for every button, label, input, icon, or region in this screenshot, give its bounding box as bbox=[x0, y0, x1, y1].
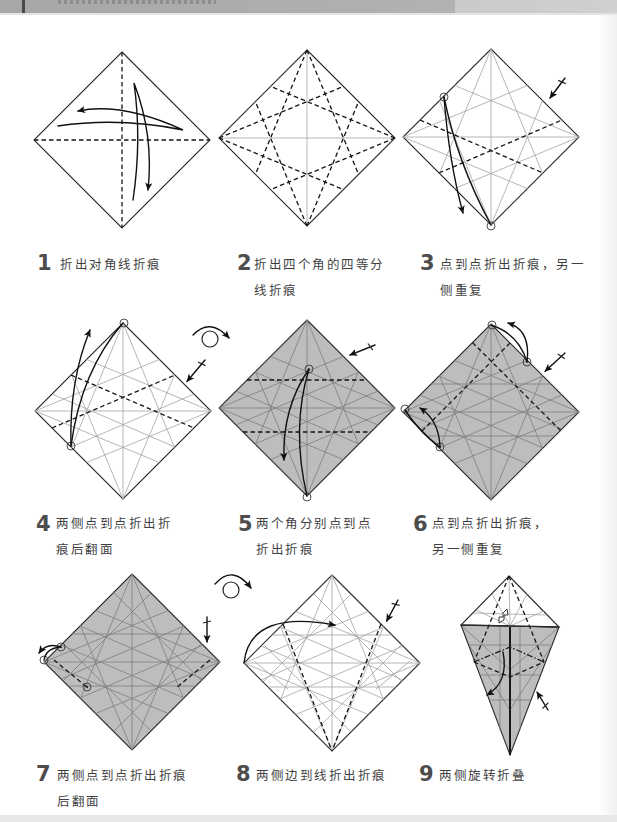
step-8-diagram bbox=[244, 575, 420, 751]
repeat-other-side-icon bbox=[534, 690, 552, 712]
step-3-diagram bbox=[403, 49, 579, 230]
step-6-diagram bbox=[401, 321, 579, 500]
existing-creases bbox=[403, 324, 579, 500]
caption-line: 后翻面 bbox=[57, 789, 188, 815]
repeat-other-side-icon bbox=[383, 598, 401, 623]
step-number: 6 bbox=[413, 514, 428, 535]
existing-creases bbox=[244, 575, 420, 751]
existing-creases bbox=[403, 49, 579, 225]
caption-line: 痕后翻面 bbox=[56, 537, 172, 563]
step-number: 4 bbox=[36, 514, 51, 535]
caption-line: 折出对角线折痕 bbox=[60, 252, 162, 278]
caption-line: 折出四个角的四等分 bbox=[254, 252, 385, 278]
step-caption: 点到点折出折痕， 另一侧重复 bbox=[432, 511, 548, 563]
repeat-other-side-icon bbox=[542, 350, 567, 374]
step-caption: 两侧旋转折叠 bbox=[439, 763, 526, 789]
caption-line: 两侧旋转折叠 bbox=[439, 763, 526, 789]
step-caption: 两侧边到线折出折痕 bbox=[256, 763, 387, 789]
step-number: 9 bbox=[419, 764, 434, 785]
point-dot-icon bbox=[86, 686, 88, 688]
step-number: 1 bbox=[37, 253, 52, 274]
step-caption: 折出四个角的四等分 线折痕 bbox=[254, 252, 385, 304]
step-caption: 两侧点到点折出折 痕后翻面 bbox=[56, 511, 172, 563]
step-4-diagram bbox=[35, 319, 211, 499]
step-2-diagram bbox=[219, 50, 395, 226]
caption-line: 折出折痕 bbox=[256, 537, 372, 563]
step-9-diagram bbox=[461, 576, 559, 755]
step-caption: 两侧点到点折出折痕 后翻面 bbox=[57, 763, 188, 815]
step-7-diagram bbox=[39, 574, 220, 750]
step-caption: 折出对角线折痕 bbox=[60, 252, 162, 278]
turn-over-icon bbox=[215, 575, 251, 598]
repeat-other-side-icon bbox=[348, 341, 376, 358]
caption-line: 点到点折出折痕，另一 bbox=[440, 252, 585, 278]
repeat-other-side-icon bbox=[184, 357, 208, 384]
step-number: 7 bbox=[36, 764, 51, 785]
step-number: 3 bbox=[420, 253, 435, 274]
caption-line: 线折痕 bbox=[254, 278, 385, 304]
step-number: 2 bbox=[237, 253, 252, 274]
caption-line: 点到点折出折痕， bbox=[432, 511, 548, 537]
step-number: 5 bbox=[238, 514, 253, 535]
step-5-diagram bbox=[219, 320, 395, 501]
repeat-other-side-icon bbox=[203, 617, 211, 642]
repeat-other-side-icon bbox=[547, 76, 568, 101]
caption-line: 两侧点到点折出折 bbox=[56, 511, 172, 537]
caption-line: 两侧边到线折出折痕 bbox=[256, 763, 387, 789]
existing-creases bbox=[219, 320, 395, 496]
step-number: 8 bbox=[236, 764, 251, 785]
caption-line: 两侧点到点折出折痕 bbox=[57, 763, 188, 789]
folding-diagrams bbox=[0, 0, 617, 822]
step-caption: 两个角分别点到点 折出折痕 bbox=[256, 511, 372, 563]
existing-creases bbox=[35, 323, 211, 499]
caption-line: 两个角分别点到点 bbox=[256, 511, 372, 537]
caption-line: 另一侧重复 bbox=[432, 537, 548, 563]
existing-creases bbox=[219, 50, 395, 226]
caption-line: 侧重复 bbox=[440, 278, 585, 304]
step-caption: 点到点折出折痕，另一 侧重复 bbox=[440, 252, 585, 304]
step-1-diagram bbox=[34, 52, 210, 228]
turn-over-icon bbox=[193, 327, 229, 347]
existing-creases bbox=[44, 574, 220, 750]
